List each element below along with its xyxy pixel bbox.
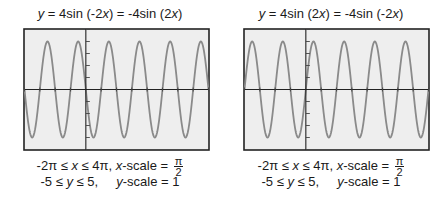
caption-text: -scale = — [122, 158, 172, 173]
chart-panel-left: y = 4sin (-2x) = -4sin (2x) -2π ≤ x ≤ 4π… — [0, 0, 220, 210]
caption-text: ≤ 5, — [294, 174, 337, 189]
caption-text: -5 ≤ — [41, 174, 67, 189]
window-yrange: -5 ≤ y ≤ 5, y-scale = 1 — [221, 174, 441, 189]
chart-title: y = 4sin (2x) = -4sin (-2x) — [221, 6, 441, 21]
chart-title: y = 4sin (-2x) = -4sin (2x) — [0, 6, 220, 21]
caption-text: -scale = 1 — [123, 174, 180, 189]
graph-window — [23, 28, 210, 151]
title-text: ) — [399, 6, 403, 21]
caption-text: ≤ 4π, — [78, 158, 116, 173]
caption-text: -5 ≤ — [262, 174, 288, 189]
caption-text: -scale = — [343, 158, 393, 173]
title-text: = 4sin (-2 — [44, 6, 102, 21]
caption-text: -scale = 1 — [344, 174, 401, 189]
title-text: = 4sin (2 — [265, 6, 319, 21]
caption-text: -2π ≤ — [258, 158, 293, 173]
title-text: ) = -4sin (2 — [109, 6, 172, 21]
caption-text: ≤ 4π, — [299, 158, 337, 173]
title-text: ) = -4sin (-2 — [326, 6, 393, 21]
caption-text: -2π ≤ — [37, 158, 72, 173]
title-text: ) — [178, 6, 182, 21]
graph-window — [243, 28, 430, 151]
caption-text: ≤ 5, — [73, 174, 116, 189]
window-yrange: -5 ≤ y ≤ 5, y-scale = 1 — [0, 174, 220, 189]
chart-panel-right: y = 4sin (2x) = -4sin (-2x) -2π ≤ x ≤ 4π… — [221, 0, 441, 210]
